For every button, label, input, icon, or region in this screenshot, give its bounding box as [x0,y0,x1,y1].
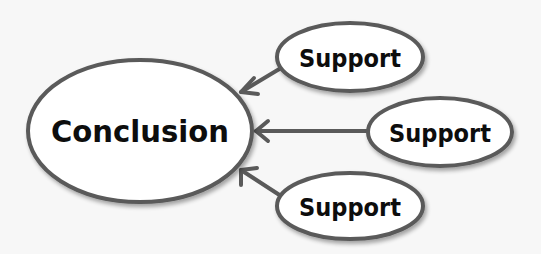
edge-support-1-to-conclusion [241,68,281,94]
support-label-3: Support [299,194,401,222]
support-label-2: Support [389,120,491,148]
support-label-1: Support [299,45,401,73]
argument-diagram: Conclusion Support Support Support [0,0,541,254]
edge-support-3-to-conclusion [241,168,281,196]
conclusion-label: Conclusion [51,114,229,149]
edge-support-2-to-conclusion [256,121,368,141]
